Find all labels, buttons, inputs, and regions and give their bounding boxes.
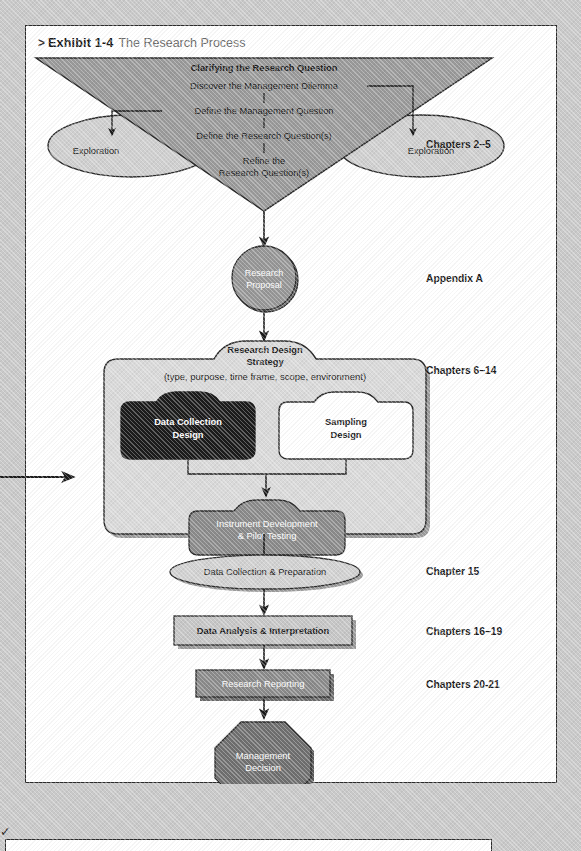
exhibit-label: Exhibit 1-4 bbox=[48, 36, 113, 50]
sampling-design-line2: Design bbox=[331, 430, 362, 440]
funnel-step-mgmt-question: Define the Management Question bbox=[194, 106, 333, 116]
sampling-design-line1: Sampling bbox=[325, 417, 367, 427]
chapter-label-analysis: Chapters 16–19 bbox=[426, 626, 502, 637]
management-decision-line1: Management bbox=[236, 751, 291, 761]
data-collection-design-node: Data Collection Design bbox=[121, 392, 255, 459]
chapter-label-design: Chapters 6–14 bbox=[426, 365, 497, 376]
research-proposal-line1: Research bbox=[245, 268, 284, 278]
management-decision-line2: Decision bbox=[245, 763, 281, 773]
design-title-line2: Strategy bbox=[246, 357, 284, 367]
data-analysis-label: Data Analysis & Interpretation bbox=[197, 626, 330, 636]
research-proposal-line2: Proposal bbox=[246, 280, 282, 290]
clarifying-funnel-group: Clarifying the Research Question Discove… bbox=[36, 58, 504, 211]
chapter-label-reporting: Chapters 20-21 bbox=[426, 679, 500, 690]
data-analysis-node: Data Analysis & Interpretation bbox=[174, 616, 356, 649]
chapter-label-clarifying: Chapters 2–5 bbox=[426, 139, 491, 150]
exploration-left-label: Exploration bbox=[73, 146, 120, 156]
sampling-design-node: Sampling Design bbox=[279, 392, 413, 459]
funnel-heading: Clarifying the Research Question bbox=[191, 63, 338, 73]
exhibit-caret-icon: > bbox=[38, 36, 45, 50]
stray-mark: ✓ bbox=[0, 826, 10, 838]
research-proposal-node: Research Proposal bbox=[232, 246, 298, 312]
exhibit-panel: >Exhibit 1-4The Research Process bbox=[25, 25, 557, 783]
chapter-label-proposal: Appendix A bbox=[426, 273, 483, 284]
design-subtitle: (type, purpose, time frame, scope, envir… bbox=[164, 371, 366, 382]
funnel-step-refine-line2: Research Question(s) bbox=[219, 168, 309, 178]
research-proposal-shape-top bbox=[232, 246, 296, 310]
research-design-strategy-box: Research Design Strategy (type, purpose,… bbox=[104, 341, 430, 555]
data-collection-preparation-node: Data Collection & Preparation bbox=[170, 555, 363, 592]
exhibit-header: >Exhibit 1-4The Research Process bbox=[38, 36, 246, 50]
data-collection-design-line2: Design bbox=[173, 430, 204, 440]
instrument-development-line2: & Pilot Testing bbox=[238, 531, 297, 541]
exhibit-title: The Research Process bbox=[118, 36, 245, 50]
instrument-development-line1: Instrument Development bbox=[216, 519, 318, 529]
funnel-step-refine-line1: Refine the bbox=[243, 156, 285, 166]
design-title-line1: Research Design bbox=[227, 345, 303, 355]
data-collection-design-line1: Data Collection bbox=[154, 417, 222, 427]
data-collection-preparation-label: Data Collection & Preparation bbox=[204, 567, 326, 577]
chapter-label-collection: Chapter 15 bbox=[426, 566, 479, 577]
research-process-flowchart: Clarifying the Research Question Discove… bbox=[26, 26, 558, 784]
management-decision-node: Management Decision bbox=[215, 722, 314, 784]
incoming-reference-arrow bbox=[0, 462, 110, 492]
research-reporting-label: Research Reporting bbox=[222, 679, 305, 689]
next-exhibit-panel bbox=[5, 839, 492, 851]
page-canvas: ✓ >Exhibit 1-4The Research Process bbox=[0, 0, 581, 851]
funnel-step-discover: Discover the Management Dilemma bbox=[190, 81, 339, 91]
funnel-step-research-question: Define the Research Question(s) bbox=[196, 131, 331, 141]
research-reporting-node: Research Reporting bbox=[196, 670, 334, 701]
